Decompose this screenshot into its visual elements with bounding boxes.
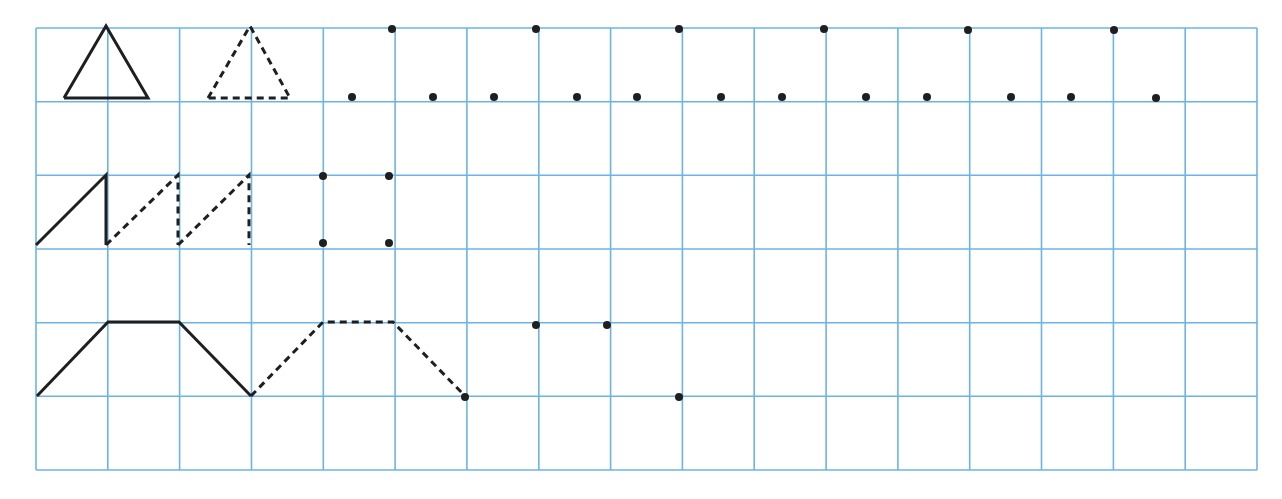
guide-dot — [1152, 94, 1160, 102]
dashed-shape-outline — [208, 26, 290, 98]
guide-dot — [388, 25, 396, 33]
pattern-row-triangles — [64, 25, 1160, 102]
guide-dot — [490, 93, 498, 101]
dashed-shape-outline — [251, 322, 465, 396]
guide-dot — [319, 172, 327, 180]
dashed-shape-outline — [178, 175, 249, 245]
dashed-shape-outline — [106, 175, 178, 245]
guide-dot — [633, 93, 641, 101]
guide-dot — [820, 25, 828, 33]
solid-shape-outline — [64, 26, 148, 98]
guide-dot — [385, 239, 393, 247]
pattern-worksheet — [0, 0, 1282, 499]
guide-dot — [532, 25, 540, 33]
pattern-shapes — [36, 25, 1160, 401]
guide-dot — [532, 321, 540, 329]
guide-dot — [573, 93, 581, 101]
pattern-row-trapezoid — [37, 321, 683, 401]
guide-dot — [348, 93, 356, 101]
guide-dot — [603, 321, 611, 329]
guide-dot — [964, 26, 972, 34]
solid-shape-outline — [37, 322, 251, 396]
guide-dot — [385, 172, 393, 180]
guide-dot — [1067, 93, 1075, 101]
guide-dot — [1007, 93, 1015, 101]
guide-dot — [923, 93, 931, 101]
guide-dot — [675, 25, 683, 33]
guide-dot — [1110, 26, 1118, 34]
pattern-row-sawtooth — [36, 172, 393, 247]
guide-dot — [717, 93, 725, 101]
guide-dot — [862, 93, 870, 101]
guide-dot — [429, 93, 437, 101]
guide-dot — [319, 239, 327, 247]
guide-dot — [461, 393, 469, 401]
guide-dot — [675, 393, 683, 401]
guide-dot — [778, 93, 786, 101]
solid-shape-outline — [36, 175, 106, 245]
